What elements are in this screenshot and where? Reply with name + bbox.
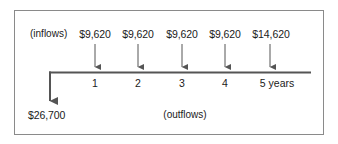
timeline-graphics (0, 0, 338, 144)
inflow-amount-2: $9,620 (122, 29, 154, 40)
period-label-4: 4 (222, 78, 228, 89)
inflow-amount-1: $9,620 (79, 29, 111, 40)
inflow-amount-4: $9,620 (209, 29, 241, 40)
inflow-amount-5: $14,620 (252, 29, 289, 40)
period-label-3: 3 (179, 78, 185, 89)
period-label-2: 2 (135, 78, 141, 89)
outflows-caption: (outflows) (163, 110, 206, 120)
period-label-1: 1 (92, 78, 98, 89)
cash-flow-timeline-diagram: (inflows) $9,620 $9,620 $9,620 $9,620 $1… (0, 0, 338, 144)
inflows-caption: (inflows) (30, 29, 67, 39)
period-label-5: 5 years (260, 78, 294, 89)
outflow-amount: $26,700 (28, 110, 65, 121)
inflow-amount-3: $9,620 (166, 29, 198, 40)
